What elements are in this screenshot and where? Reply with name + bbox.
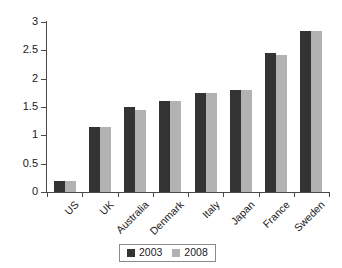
y-axis-tick xyxy=(41,192,46,193)
y-axis-tick xyxy=(41,79,46,80)
bar-denmark-2008 xyxy=(170,101,181,192)
y-axis-tick-label: 1 xyxy=(0,129,38,140)
bar-sweden-2008 xyxy=(311,31,322,193)
legend-swatch-2008-icon xyxy=(172,249,180,257)
y-axis-tick-label: 2.5 xyxy=(0,44,38,55)
bar-japan-2003 xyxy=(230,90,241,192)
y-axis-tick xyxy=(41,107,46,108)
bar-sweden-2003 xyxy=(300,31,311,193)
bar-chart: 00.511.522.53 USUKAustraliaDenmarkItalyJ… xyxy=(0,0,342,268)
bar-us-2003 xyxy=(54,181,65,192)
x-axis-tick xyxy=(223,192,224,197)
x-axis-tick xyxy=(47,192,48,197)
x-axis-tick xyxy=(82,192,83,197)
bar-uk-2008 xyxy=(100,127,111,192)
legend-label-2008: 2008 xyxy=(184,247,207,258)
y-axis-tick xyxy=(41,164,46,165)
bar-france-2008 xyxy=(276,55,287,192)
bar-italy-2008 xyxy=(206,93,217,192)
legend-item-2003: 2003 xyxy=(127,247,162,258)
y-axis-tick xyxy=(41,22,46,23)
bar-italy-2003 xyxy=(195,93,206,192)
bar-uk-2003 xyxy=(89,127,100,192)
x-axis-tick xyxy=(153,192,154,197)
x-axis-tick xyxy=(188,192,189,197)
y-axis-tick-label: 0 xyxy=(0,186,38,197)
plot-area xyxy=(47,22,329,192)
x-axis-tick xyxy=(259,192,260,197)
legend-swatch-2003-icon xyxy=(127,249,135,257)
bar-denmark-2003 xyxy=(159,101,170,192)
legend-label-2003: 2003 xyxy=(139,247,162,258)
y-axis-tick xyxy=(41,135,46,136)
y-axis-tick-label: 2 xyxy=(0,73,38,84)
x-axis-tick xyxy=(294,192,295,197)
legend-item-2008: 2008 xyxy=(172,247,207,258)
bar-japan-2008 xyxy=(241,90,252,192)
bar-australia-2003 xyxy=(124,107,135,192)
bar-australia-2008 xyxy=(135,110,146,192)
y-axis-tick-label: 1.5 xyxy=(0,101,38,112)
y-axis-tick xyxy=(41,50,46,51)
x-axis-tick xyxy=(329,192,330,197)
y-axis-tick-label: 0.5 xyxy=(0,158,38,169)
x-axis-tick xyxy=(118,192,119,197)
bar-us-2008 xyxy=(65,181,76,192)
chart-legend: 2003 2008 xyxy=(119,244,216,262)
bar-france-2003 xyxy=(265,53,276,192)
y-axis-tick-label: 3 xyxy=(0,16,38,27)
